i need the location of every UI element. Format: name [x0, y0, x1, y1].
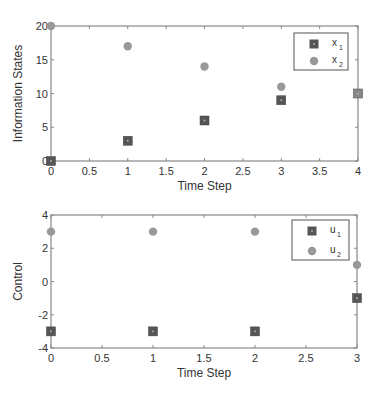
y-tick-label: -2: [38, 309, 48, 321]
legend-subscript: 1: [337, 231, 341, 238]
legend-label-u1: u: [330, 224, 336, 235]
legend-subscript: 2: [337, 251, 341, 258]
legend: u1u2: [292, 220, 349, 260]
x-tick-label: 1.5: [158, 165, 173, 177]
y-axis-label: Control: [11, 262, 25, 301]
marker-center-dot: [356, 297, 358, 299]
marker-center-dot: [254, 331, 256, 333]
x-axis-label: Time Step: [177, 366, 232, 380]
x-tick-label: 0: [48, 165, 54, 177]
x2-marker: [124, 42, 132, 50]
marker-center-dot: [311, 230, 313, 232]
y-axis-label: Information States: [11, 45, 25, 142]
x-tick-label: 1: [150, 352, 156, 364]
x-tick-label: 0.5: [82, 165, 97, 177]
u2-marker: [149, 227, 157, 235]
legend: x1x2: [294, 33, 348, 70]
y-tick-label: -4: [38, 342, 48, 354]
x2-marker: [200, 62, 208, 70]
u2-marker: [251, 227, 259, 235]
legend-label-x2: x: [332, 54, 337, 65]
x-tick-label: 2.5: [298, 352, 313, 364]
x-tick-label: 2: [252, 352, 258, 364]
figure: 00.511.522.533.5405101520Time StepInform…: [0, 0, 380, 401]
marker-center-dot: [280, 99, 282, 101]
x-tick-label: 1: [125, 165, 131, 177]
marker-center-dot: [357, 93, 359, 95]
legend-label-x1: x: [332, 37, 337, 48]
legend-circle-icon: [310, 57, 318, 65]
marker-center-dot: [50, 331, 52, 333]
x-tick-label: 2.5: [235, 165, 250, 177]
u2-marker: [47, 227, 55, 235]
x-tick-label: 1.5: [196, 352, 211, 364]
x-tick-label: 3.5: [312, 165, 327, 177]
marker-center-dot: [204, 120, 206, 122]
y-tick-label: 4: [42, 209, 48, 221]
information-states-plot: 00.511.522.533.5405101520Time StepInform…: [11, 20, 363, 193]
control-plot: 00.511.522.53-4-2024Time StepControlu1u2: [11, 209, 362, 380]
legend-label-u2: u: [330, 244, 336, 255]
x-tick-label: 0: [48, 352, 54, 364]
legend-subscript: 1: [339, 44, 343, 51]
marker-center-dot: [50, 160, 52, 162]
x-tick-label: 3: [354, 352, 360, 364]
x-tick-label: 0.5: [94, 352, 109, 364]
y-tick-label: 20: [36, 20, 48, 32]
marker-center-dot: [152, 331, 154, 333]
legend-subscript: 2: [339, 61, 343, 68]
marker-center-dot: [313, 43, 315, 45]
legend-circle-icon: [308, 247, 316, 255]
y-tick-label: 5: [42, 121, 48, 133]
y-tick-label: 2: [42, 242, 48, 254]
y-tick-label: 10: [36, 88, 48, 100]
y-tick-label: 15: [36, 54, 48, 66]
x2-marker: [277, 83, 285, 91]
x-tick-label: 4: [355, 165, 361, 177]
marker-center-dot: [127, 140, 129, 142]
x-axis-label: Time Step: [177, 179, 232, 193]
x-tick-label: 2: [201, 165, 207, 177]
u2-marker: [353, 261, 361, 269]
x-tick-label: 3: [278, 165, 284, 177]
x2-marker: [47, 22, 55, 30]
y-tick-label: 0: [42, 276, 48, 288]
